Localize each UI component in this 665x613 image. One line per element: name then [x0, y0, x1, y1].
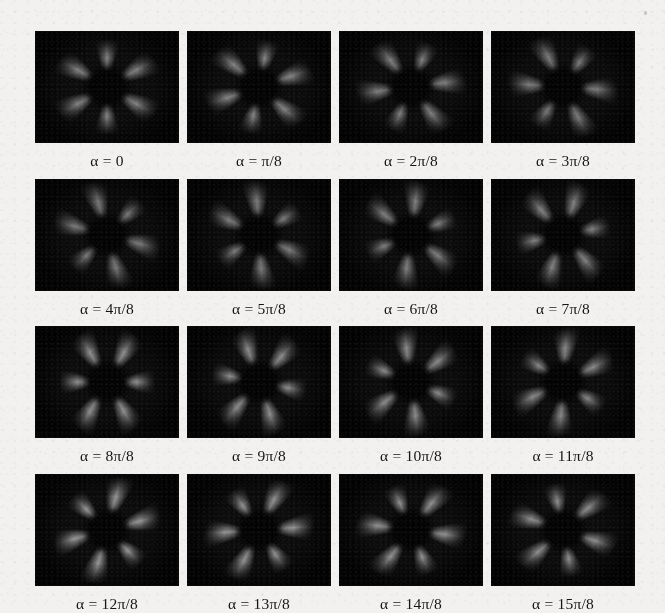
panel-caption: α = 12π/8 [76, 585, 138, 613]
figure-cell: α = 4π/8 [36, 180, 178, 328]
panel-noise-overlay [340, 475, 482, 585]
figure-panel-grid: α = 0α = π/8α = 2π/8α = 3π/8α = 4π/8α = … [36, 32, 634, 613]
figure-cell: α = 13π/8 [188, 475, 330, 613]
rosette-image-panel [36, 475, 178, 585]
panel-caption: α = 2π/8 [384, 142, 438, 180]
panel-noise-overlay [188, 327, 330, 437]
figure-cell: α = π/8 [188, 32, 330, 180]
figure-cell: α = 12π/8 [36, 475, 178, 613]
panel-noise-overlay [340, 327, 482, 437]
figure-cell: α = 3π/8 [492, 32, 634, 180]
figure-cell: α = 11π/8 [492, 327, 634, 475]
figure-cell: α = 8π/8 [36, 327, 178, 475]
figure-cell: α = 2π/8 [340, 32, 482, 180]
figure-cell: α = 10π/8 [340, 327, 482, 475]
panel-noise-overlay [492, 327, 634, 437]
panel-caption: α = 8π/8 [80, 437, 134, 475]
scan-artifact-mark [644, 11, 647, 15]
figure-cell: α = 9π/8 [188, 327, 330, 475]
panel-caption: α = 3π/8 [536, 142, 590, 180]
panel-caption: α = 6π/8 [384, 290, 438, 328]
panel-caption: α = 5π/8 [232, 290, 286, 328]
rosette-image-panel [492, 180, 634, 290]
panel-caption: α = π/8 [236, 142, 282, 180]
rosette-image-panel [340, 32, 482, 142]
panel-noise-overlay [492, 475, 634, 585]
panel-caption: α = 9π/8 [232, 437, 286, 475]
panel-noise-overlay [36, 180, 178, 290]
figure-cell: α = 7π/8 [492, 180, 634, 328]
panel-noise-overlay [188, 32, 330, 142]
panel-noise-overlay [492, 32, 634, 142]
rosette-image-panel [36, 32, 178, 142]
rosette-image-panel [36, 327, 178, 437]
rosette-image-panel [492, 327, 634, 437]
figure-cell: α = 5π/8 [188, 180, 330, 328]
panel-caption: α = 0 [90, 142, 123, 180]
panel-noise-overlay [492, 180, 634, 290]
panel-noise-overlay [36, 475, 178, 585]
panel-noise-overlay [36, 327, 178, 437]
panel-noise-overlay [188, 180, 330, 290]
figure-cell: α = 0 [36, 32, 178, 180]
panel-noise-overlay [36, 32, 178, 142]
figure-cell: α = 6π/8 [340, 180, 482, 328]
figure-cell: α = 14π/8 [340, 475, 482, 613]
figure-cell: α = 15π/8 [492, 475, 634, 613]
rosette-image-panel [188, 327, 330, 437]
rosette-image-panel [188, 180, 330, 290]
panel-noise-overlay [188, 475, 330, 585]
panel-caption: α = 7π/8 [536, 290, 590, 328]
panel-noise-overlay [340, 32, 482, 142]
rosette-image-panel [492, 32, 634, 142]
rosette-image-panel [188, 32, 330, 142]
rosette-image-panel [340, 180, 482, 290]
rosette-image-panel [492, 475, 634, 585]
panel-noise-overlay [340, 180, 482, 290]
panel-caption: α = 10π/8 [380, 437, 442, 475]
rosette-image-panel [36, 180, 178, 290]
panel-caption: α = 15π/8 [532, 585, 594, 613]
panel-caption: α = 11π/8 [532, 437, 593, 475]
panel-caption: α = 14π/8 [380, 585, 442, 613]
panel-caption: α = 4π/8 [80, 290, 134, 328]
rosette-image-panel [188, 475, 330, 585]
rosette-image-panel [340, 475, 482, 585]
panel-caption: α = 13π/8 [228, 585, 290, 613]
rosette-image-panel [340, 327, 482, 437]
